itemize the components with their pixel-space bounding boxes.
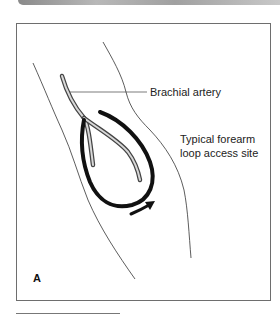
- arm-outline-left: [33, 63, 135, 279]
- access-site-label-line1: Typical forearm: [180, 132, 258, 146]
- footer-rule: [16, 313, 120, 314]
- access-site-label-line2: loop access site: [180, 146, 258, 160]
- brachial-artery-label: Brachial artery: [150, 85, 221, 99]
- access-site-label: Typical forearm loop access site: [180, 132, 258, 160]
- arm-outline-right: [103, 42, 191, 258]
- panel-letter: A: [33, 272, 41, 284]
